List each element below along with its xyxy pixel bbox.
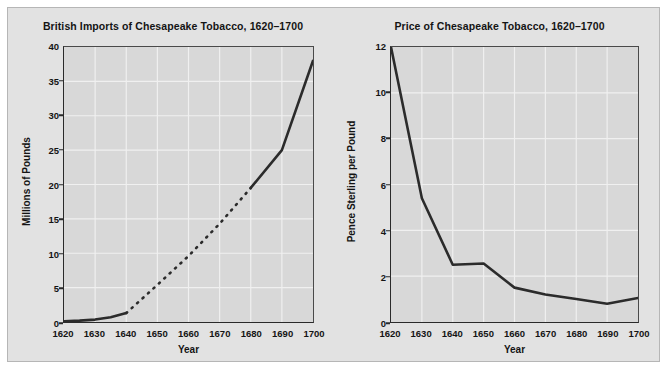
y-axis-ticks-price: 024681012 bbox=[360, 46, 386, 323]
y-axis-tick-label: 20 bbox=[48, 179, 59, 190]
y-axis-tick-label: 10 bbox=[375, 87, 386, 98]
y-axis-tick-label: 10 bbox=[48, 248, 59, 259]
x-axis-label-price: Year bbox=[390, 344, 639, 355]
x-axis-tick-label: 1630 bbox=[411, 328, 432, 339]
x-axis-ticks-imports: 162016301640165016601670168016901700 bbox=[63, 328, 314, 342]
figure-panel: British Imports of Chesapeake Tobacco, 1… bbox=[7, 7, 660, 362]
y-axis-ticks-imports: 0510152025303540 bbox=[30, 46, 59, 323]
plot-canvas-imports bbox=[64, 47, 313, 322]
x-axis-tick-label: 1680 bbox=[566, 328, 587, 339]
x-axis-tick-label: 1640 bbox=[442, 328, 463, 339]
y-axis-tick-label: 25 bbox=[48, 144, 59, 155]
x-axis-tick-label: 1670 bbox=[535, 328, 556, 339]
chart-title-imports: British Imports of Chesapeake Tobacco, 1… bbox=[8, 20, 338, 32]
chart-price: Price of Chesapeake Tobacco, 1620–1700 P… bbox=[338, 8, 661, 363]
y-axis-tick-label: 30 bbox=[48, 110, 59, 121]
x-axis-tick-label: 1690 bbox=[272, 328, 293, 339]
x-axis-tick-label: 1680 bbox=[241, 328, 262, 339]
x-axis-tick-label: 1650 bbox=[473, 328, 494, 339]
x-axis-tick-label: 1650 bbox=[147, 328, 168, 339]
x-axis-tick-label: 1660 bbox=[504, 328, 525, 339]
figure-page: British Imports of Chesapeake Tobacco, 1… bbox=[0, 0, 667, 379]
x-axis-tick-label: 1640 bbox=[115, 328, 136, 339]
x-axis-tick-label: 1660 bbox=[178, 328, 199, 339]
x-axis-tick-label: 1700 bbox=[303, 328, 324, 339]
chart-imports: British Imports of Chesapeake Tobacco, 1… bbox=[8, 8, 338, 363]
x-axis-ticks-price: 162016301640165016601670168016901700 bbox=[390, 328, 639, 342]
x-axis-tick-label: 1630 bbox=[84, 328, 105, 339]
plot-canvas-price bbox=[391, 47, 638, 322]
y-axis-tick-label: 12 bbox=[375, 41, 386, 52]
x-axis-tick-label: 1670 bbox=[209, 328, 230, 339]
plot-area-imports bbox=[63, 46, 314, 323]
y-axis-tick-label: 40 bbox=[48, 41, 59, 52]
x-axis-tick-label: 1620 bbox=[379, 328, 400, 339]
y-axis-tick-label: 15 bbox=[48, 214, 59, 225]
y-axis-tick-label: 35 bbox=[48, 75, 59, 86]
x-axis-label-imports: Year bbox=[63, 344, 314, 355]
x-axis-tick-label: 1700 bbox=[628, 328, 649, 339]
plot-area-price bbox=[390, 46, 639, 323]
y-axis-label-price: Pence Sterling per Pound bbox=[346, 102, 357, 262]
chart-title-price: Price of Chesapeake Tobacco, 1620–1700 bbox=[338, 20, 661, 32]
x-axis-tick-label: 1620 bbox=[52, 328, 73, 339]
x-axis-tick-label: 1690 bbox=[597, 328, 618, 339]
